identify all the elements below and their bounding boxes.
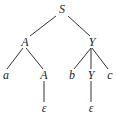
parse-tree-diagram: SAYaAbYcεε — [0, 0, 116, 115]
tree-node-label: ε — [89, 101, 94, 115]
tree-nodes: SAYaAbYcεε — [3, 2, 113, 115]
tree-node-label: ε — [42, 101, 47, 115]
tree-node-label: A — [20, 35, 29, 49]
tree-edges — [7, 16, 108, 102]
tree-edge — [68, 16, 90, 36]
tree-edge — [92, 48, 108, 69]
tree-node-label: Y — [89, 35, 97, 49]
tree-node-label: Y — [88, 68, 96, 82]
tree-node-label: a — [3, 68, 9, 82]
tree-edge — [26, 48, 43, 69]
tree-node-label: c — [107, 68, 113, 82]
tree-node-label: b — [69, 68, 75, 82]
tree-node-label: A — [39, 68, 48, 82]
tree-node-label: S — [59, 2, 65, 16]
tree-edge — [30, 16, 56, 36]
tree-edge — [7, 48, 23, 69]
tree-edge — [74, 48, 91, 69]
